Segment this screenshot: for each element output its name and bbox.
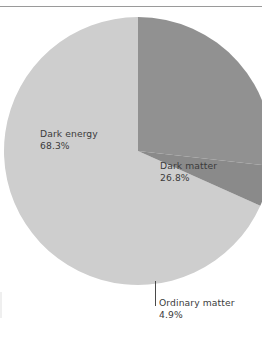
pie-label-ordinary-matter-value: 4.9%: [159, 309, 235, 321]
pie-label-dark-matter-name: Dark matter: [160, 160, 217, 172]
pie-chart-figure: Dark energy 68.3% Dark matter 26.8% Ordi…: [0, 0, 262, 346]
pie-leader-line-ordinary-matter: [155, 281, 156, 306]
pie-label-dark-energy-value: 68.3%: [40, 140, 98, 152]
pie-label-dark-matter: Dark matter 26.8%: [160, 160, 217, 184]
pie-label-ordinary-matter: Ordinary matter 4.9%: [159, 297, 235, 321]
pie-chart-graphic: [0, 0, 262, 346]
pie-slice-dark-matter: [138, 17, 262, 166]
pie-label-dark-energy: Dark energy 68.3%: [40, 128, 98, 152]
pie-label-ordinary-matter-name: Ordinary matter: [159, 297, 235, 309]
pie-label-dark-energy-name: Dark energy: [40, 128, 98, 140]
pie-label-dark-matter-value: 26.8%: [160, 172, 217, 184]
